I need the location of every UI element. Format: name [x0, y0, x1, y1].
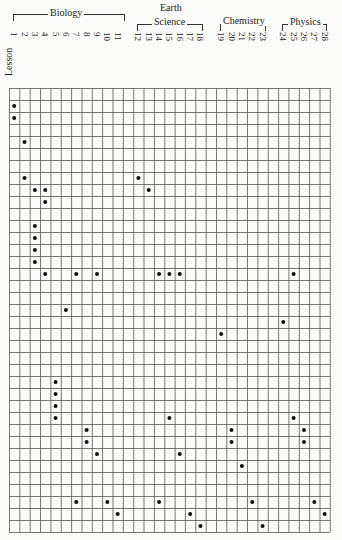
data-point — [85, 440, 89, 444]
data-point — [312, 500, 316, 504]
data-point — [54, 416, 58, 420]
data-point — [230, 428, 234, 432]
data-point — [198, 524, 202, 528]
lesson-number: 28 — [320, 32, 330, 41]
data-point — [85, 428, 89, 432]
data-point — [323, 512, 327, 516]
data-point — [302, 428, 306, 432]
data-point — [33, 224, 37, 228]
lesson-number: 2 — [20, 32, 30, 37]
dot-grid-chart — [9, 88, 331, 534]
lesson-number: 13 — [144, 32, 154, 41]
lesson-number: 9 — [92, 32, 102, 37]
data-point — [292, 416, 296, 420]
data-point — [136, 176, 140, 180]
data-point — [157, 500, 161, 504]
data-point — [116, 512, 120, 516]
lesson-number: 22 — [247, 32, 257, 41]
lesson-number: 10 — [102, 32, 112, 41]
data-point — [43, 200, 47, 204]
data-point — [178, 452, 182, 456]
data-point — [33, 236, 37, 240]
data-point — [54, 392, 58, 396]
data-point — [167, 272, 171, 276]
lesson-axis-label: Lesson — [3, 48, 14, 76]
lesson-number: 3 — [30, 32, 40, 37]
data-point — [64, 308, 68, 312]
data-point — [33, 260, 37, 264]
data-point — [167, 416, 171, 420]
data-point — [250, 500, 254, 504]
physics-label: Physics — [288, 16, 323, 27]
lesson-number: 8 — [82, 32, 92, 37]
data-point — [23, 140, 27, 144]
earth-label: Earth — [158, 2, 184, 13]
lesson-number: 27 — [309, 32, 319, 41]
data-point — [12, 104, 16, 108]
data-point — [281, 320, 285, 324]
lesson-number: 6 — [61, 32, 71, 37]
lesson-number: 5 — [51, 32, 61, 37]
lesson-number: 11 — [113, 32, 123, 41]
lesson-number: 12 — [133, 32, 143, 41]
data-point — [240, 464, 244, 468]
data-point — [188, 512, 192, 516]
chemistry-label: Chemistry — [221, 15, 267, 26]
lesson-number: 21 — [237, 32, 247, 41]
data-point — [302, 440, 306, 444]
data-point — [74, 500, 78, 504]
lesson-number: 16 — [175, 32, 185, 41]
data-point — [147, 188, 151, 192]
data-point — [95, 452, 99, 456]
data-point — [95, 272, 99, 276]
lesson-number: 17 — [185, 32, 195, 41]
data-point — [219, 332, 223, 336]
lesson-number: 24 — [278, 32, 288, 41]
data-point — [230, 440, 234, 444]
data-point — [74, 272, 78, 276]
lesson-number: 7 — [71, 32, 81, 37]
data-point — [33, 248, 37, 252]
data-point — [157, 272, 161, 276]
lesson-number: 4 — [40, 32, 50, 37]
science-label: Science — [152, 16, 187, 27]
lesson-number: 25 — [289, 32, 299, 41]
lesson-number: 15 — [164, 32, 174, 41]
lesson-number: 19 — [216, 32, 226, 41]
data-point — [12, 116, 16, 120]
lesson-number: 1 — [9, 32, 19, 37]
biology-label: Biology — [48, 7, 84, 18]
data-point — [105, 500, 109, 504]
data-point — [54, 404, 58, 408]
data-point — [261, 524, 265, 528]
data-point — [43, 272, 47, 276]
data-point — [292, 272, 296, 276]
lesson-number: 20 — [227, 32, 237, 41]
data-point — [43, 188, 47, 192]
data-point — [178, 272, 182, 276]
lesson-number: 14 — [154, 32, 164, 41]
data-point — [54, 380, 58, 384]
lesson-number: 23 — [258, 32, 268, 41]
data-point — [23, 176, 27, 180]
lesson-number: 26 — [299, 32, 309, 41]
lesson-number: 18 — [195, 32, 205, 41]
data-point — [33, 188, 37, 192]
